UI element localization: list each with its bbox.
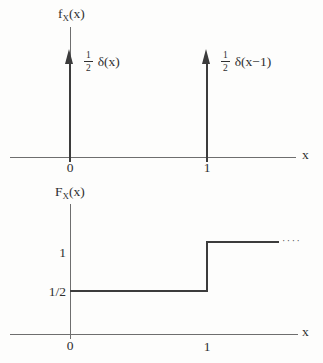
pdf-impulse-0-fraction: 1 2 [84, 50, 93, 74]
cdf-ylabel-arg: (x) [69, 184, 85, 199]
pdf-impulse-1-arrowhead-icon [202, 49, 210, 64]
cdf-y-tick-half: 1/2 [40, 285, 66, 300]
fraction-denominator: 2 [86, 62, 91, 74]
fraction-numerator: 1 [84, 50, 93, 62]
pdf-x-tick-0: 0 [60, 161, 80, 176]
pdf-impulse-1-delta: δ(x−1) [235, 55, 271, 70]
cdf-step-jump [206, 241, 208, 292]
cdf-x-axis-line [10, 334, 298, 335]
pdf-x-axis-title: x [302, 148, 309, 163]
pdf-y-axis-title: fX(x) [58, 7, 85, 24]
cdf-step-one-segment [206, 241, 279, 243]
cdf-step-half-segment [70, 290, 208, 292]
pdf-ylabel-arg: (x) [69, 6, 85, 21]
pdf-impulse-1-label: 1 2 δ(x−1) [221, 50, 271, 74]
pdf-x-axis-line [10, 157, 296, 158]
pdf-impulse-0-stem [69, 60, 71, 162]
cdf-x-tick-0: 0 [60, 339, 80, 354]
pdf-x-tick-1: 1 [197, 161, 217, 176]
cdf-y-axis-title: FX(x) [55, 185, 85, 202]
distribution-figure: fX(x) x 1 2 δ(x) 1 2 δ(x−1) 0 [0, 0, 323, 363]
cdf-y-axis-line [70, 204, 71, 339]
pdf-impulse-0-arrowhead-icon [65, 49, 73, 64]
fraction-numerator: 1 [221, 50, 230, 62]
fraction-denominator: 2 [223, 62, 228, 74]
pdf-impulse-1-stem [206, 60, 208, 162]
cdf-continuation-dots: ···· [282, 235, 301, 246]
pdf-impulse-0-delta: δ(x) [98, 55, 120, 70]
pdf-impulse-1-fraction: 1 2 [221, 50, 230, 74]
cdf-x-tick-1: 1 [197, 340, 217, 355]
cdf-x-axis-title: x [302, 325, 309, 340]
cdf-y-tick-1: 1 [40, 246, 66, 261]
cdf-ylabel-base: F [55, 184, 63, 199]
pdf-impulse-0-label: 1 2 δ(x) [84, 50, 120, 74]
